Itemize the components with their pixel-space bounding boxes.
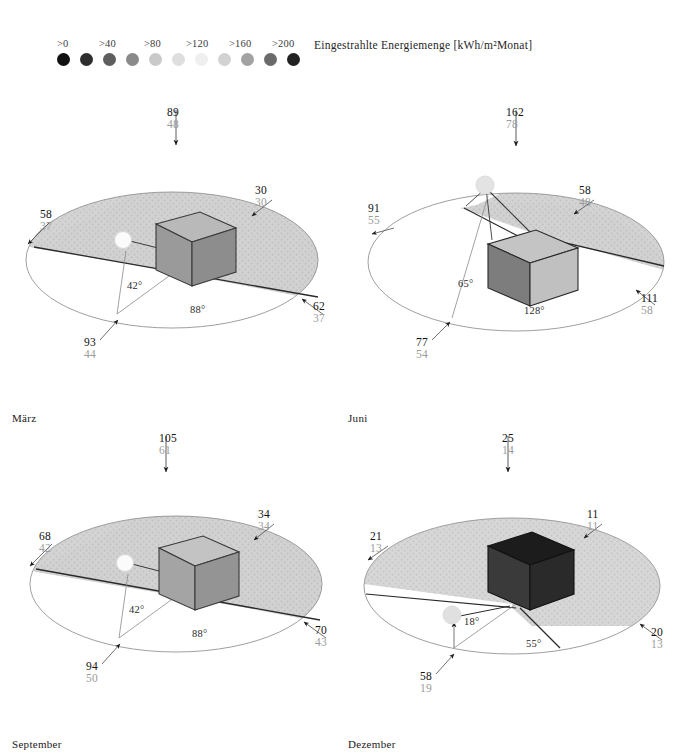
legend-swatch-2: [103, 53, 116, 66]
callout-top-dezember: 25 14: [502, 432, 514, 457]
leader-left: [372, 228, 394, 234]
altitude-angle-september: 42°: [129, 604, 144, 615]
legend-swatch-3: [126, 53, 139, 66]
azimuth-angle-maerz: 88°: [190, 304, 205, 315]
altitude-leg: [452, 196, 488, 318]
leader-bottom: [102, 644, 120, 664]
sunpath-graphic-maerz: [4, 100, 348, 430]
legend-tick-1: >40: [99, 38, 116, 49]
legend-swatch-1: [80, 53, 93, 66]
legend-tick-0: >0: [57, 38, 69, 49]
altitude-angle-maerz: 42°: [127, 280, 142, 291]
callout-upper-right-september: 34 34: [258, 508, 270, 533]
legend-tick-3: >120: [186, 38, 208, 49]
legend-tick-5: >200: [272, 38, 294, 49]
callout-lower-right-juni: 111 58: [641, 292, 658, 317]
month-label-maerz: März: [12, 412, 36, 424]
callout-left-september: 68 42: [39, 530, 51, 555]
month-label-dezember: Dezember: [348, 738, 396, 750]
azimuth-angle-september: 88°: [192, 628, 207, 639]
callout-bottom-juni: 77 54: [416, 336, 428, 361]
callout-bottom-dezember: 58 19: [420, 670, 432, 695]
legend-tick-4: >160: [229, 38, 251, 49]
callout-left-dezember: 21 13: [370, 530, 382, 555]
callout-lower-right-september: 70 43: [315, 624, 327, 649]
leader-bottom: [432, 322, 450, 340]
panel-september: 68 42 34 34 70 43 94 50 105 61 42° 88° S…: [4, 426, 348, 754]
sun-marker: [443, 606, 461, 624]
legend-swatch-5: [172, 53, 185, 66]
callout-upper-right-maerz: 30 30: [255, 184, 267, 209]
panel-dezember: 21 13 11 11 20 13 58 19 25 14 18° 55° De…: [340, 426, 684, 754]
callout-bottom-maerz: 93 44: [84, 336, 96, 361]
azimuth-angle-dezember: 55°: [526, 638, 541, 649]
legend-swatch-8: [241, 53, 254, 66]
altitude-angle-juni: 65°: [458, 278, 473, 289]
sunpath-graphic-dezember: [340, 426, 684, 754]
sun-marker: [117, 555, 134, 572]
panel-juni: 91 55 58 48 111 58 77 54 162 78 65° 128°…: [340, 100, 684, 430]
legend-swatch-6: [195, 53, 208, 66]
legend-swatch-7: [218, 53, 231, 66]
callout-top-september: 105 61: [159, 432, 177, 457]
legend: >0 >40 >80 >120 >160 >200 Eingestrahlte …: [0, 0, 688, 90]
legend-tick-2: >80: [144, 38, 161, 49]
sun-marker: [476, 176, 494, 194]
callout-lower-right-maerz: 62 37: [313, 300, 325, 325]
month-label-september: September: [12, 738, 62, 750]
legend-caption: Eingestrahlte Energiemenge [kWh/m²Monat]: [314, 39, 532, 51]
building-cube: [156, 212, 236, 286]
leader-bottom: [436, 654, 454, 674]
legend-swatch-10: [287, 53, 300, 66]
callout-upper-right-juni: 58 48: [579, 184, 591, 209]
callout-left-maerz: 58 37: [40, 208, 52, 233]
month-label-juni: Juni: [348, 412, 368, 424]
callout-bottom-september: 94 50: [86, 660, 98, 685]
callout-upper-right-dezember: 11 11: [587, 508, 598, 533]
leader-bottom: [100, 320, 118, 340]
callout-lower-right-dezember: 20 13: [651, 626, 663, 651]
legend-swatch-9: [264, 53, 277, 66]
sun-marker: [115, 232, 132, 249]
legend-swatch-4: [149, 53, 162, 66]
panel-maerz: 58 37 30 30 62 37 93 44 89 48 42° 88° Mä…: [4, 100, 348, 430]
azimuth-angle-juni: 128°: [524, 305, 545, 316]
sunpath-graphic-september: [4, 426, 348, 754]
callout-top-maerz: 89 48: [167, 106, 179, 131]
building-cube: [159, 536, 239, 610]
callout-left-juni: 91 55: [368, 202, 380, 227]
sunpath-graphic-juni: [340, 100, 684, 430]
legend-swatch-0: [57, 53, 70, 66]
callout-top-juni: 162 78: [506, 106, 524, 131]
altitude-angle-dezember: 18°: [464, 616, 479, 627]
